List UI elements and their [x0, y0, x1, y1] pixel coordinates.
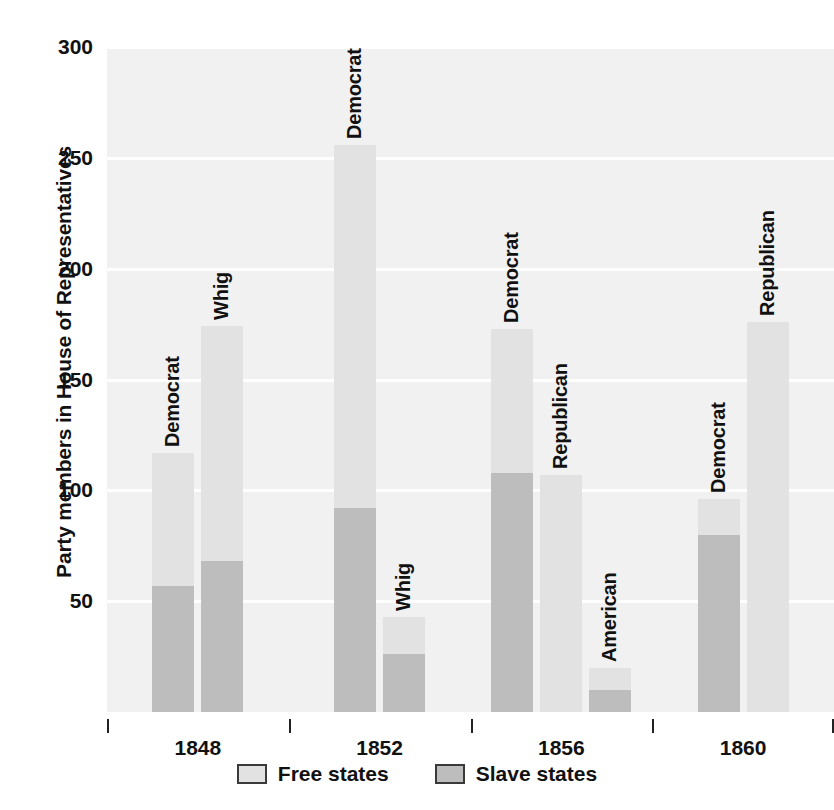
y-axis-tick-label: 150: [33, 369, 93, 390]
gridline: [107, 157, 834, 160]
legend-label: Slave states: [476, 762, 597, 786]
legend-swatch: [435, 764, 465, 784]
bar-label: Whig: [392, 563, 415, 611]
bar-1848-democrat: Democrat: [152, 453, 194, 712]
bar-segment-free-states: [491, 329, 533, 473]
bar-label: Whig: [210, 272, 233, 320]
bar-label: Democrat: [343, 48, 366, 139]
bar-segment-free-states: [698, 499, 740, 534]
bar-label: Democrat: [707, 403, 730, 494]
x-axis-tick-label: 1848: [138, 736, 258, 760]
gridline: [107, 46, 834, 49]
bar-label: Democrat: [500, 232, 523, 323]
x-axis-tick-label: 1856: [501, 736, 621, 760]
y-axis-tick-label: 250: [33, 147, 93, 168]
legend-item-free-states[interactable]: Free states: [237, 762, 389, 786]
bar-segment-slave-states: [334, 508, 376, 712]
bar-label: Republican: [549, 363, 572, 469]
x-axis-tick-mark: [107, 719, 109, 733]
legend-label: Free states: [278, 762, 389, 786]
bar-label: American: [598, 572, 621, 662]
bar-segment-free-states: [201, 326, 243, 561]
bar-label: Democrat: [161, 356, 184, 447]
bar-segment-slave-states: [491, 473, 533, 712]
bar-segment-slave-states: [201, 561, 243, 712]
y-axis-tick-label: 300: [33, 36, 93, 57]
x-axis-tick-mark: [652, 719, 654, 733]
gridline: [107, 268, 834, 271]
bar-1860-democrat: Democrat: [698, 499, 740, 712]
bar-segment-slave-states: [152, 586, 194, 712]
bar-segment-slave-states: [698, 535, 740, 712]
bar-segment-free-states: [152, 453, 194, 586]
bar-1856-democrat: Democrat: [491, 329, 533, 712]
bar-segment-free-states: [383, 617, 425, 655]
legend-swatch: [237, 764, 267, 784]
bar-label: Republican: [756, 210, 779, 316]
bar-segment-free-states: [540, 475, 582, 712]
bar-chart: Party members in House of Representative…: [0, 0, 834, 810]
x-axis-tick-label: 1852: [320, 736, 440, 760]
x-axis-tick-label: 1860: [683, 736, 803, 760]
bar-segment-free-states: [334, 145, 376, 509]
bar-segment-slave-states: [383, 654, 425, 712]
bar-1860-republican: Republican: [747, 322, 789, 712]
bar-segment-free-states: [747, 322, 789, 712]
x-axis-tick-mark: [471, 719, 473, 733]
y-axis-tick-label: 50: [33, 590, 93, 611]
plot-area: DemocratWhigDemocratWhigDemocratRepublic…: [107, 47, 834, 712]
bar-segment-slave-states: [589, 690, 631, 712]
legend-item-slave-states[interactable]: Slave states: [435, 762, 597, 786]
y-axis-tick-label: 200: [33, 258, 93, 279]
bar-1856-republican: Republican: [540, 475, 582, 712]
x-axis-tick-mark: [289, 719, 291, 733]
bar-1856-american: American: [589, 668, 631, 712]
bar-1852-whig: Whig: [383, 617, 425, 712]
x-axis: 1848185218561860: [107, 712, 834, 758]
bar-1852-democrat: Democrat: [334, 145, 376, 712]
bar-segment-free-states: [589, 668, 631, 690]
chart-legend: Free statesSlave states: [0, 762, 834, 786]
bar-1848-whig: Whig: [201, 326, 243, 712]
y-axis-tick-label: 100: [33, 479, 93, 500]
